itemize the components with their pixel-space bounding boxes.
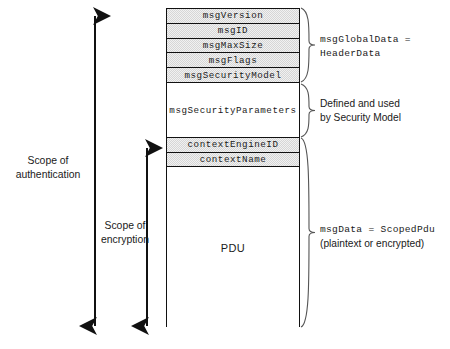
field-msgsecurityparameters: msgSecurityParameters bbox=[167, 83, 299, 138]
field-msgid: msgID bbox=[167, 24, 299, 39]
group-braces bbox=[300, 0, 320, 349]
label-security-model: Defined and usedby Security Model bbox=[320, 97, 401, 124]
field-msgmaxsize: msgMaxSize bbox=[167, 39, 299, 54]
label-line: (plaintext or encrypted) bbox=[320, 237, 435, 251]
field-msgsecuritymodel: msgSecurityModel bbox=[167, 68, 299, 83]
label-msgdata: msgData = ScopedPdu(plaintext or encrypt… bbox=[320, 223, 435, 250]
field-contextengineid: contextEngineID bbox=[167, 138, 299, 153]
scope-of-authentication-label: Scope ofauthentication bbox=[0, 154, 96, 181]
label-line: by Security Model bbox=[320, 111, 401, 125]
pdu-label: PDU bbox=[221, 242, 245, 254]
label-msgglobaldata: msgGlobalData =HeaderData bbox=[320, 33, 411, 60]
label-line: msgData = ScopedPdu bbox=[320, 223, 435, 237]
brace-msg-data bbox=[301, 138, 315, 327]
label-line: HeaderData bbox=[320, 47, 411, 61]
brace-global-data bbox=[301, 8, 315, 82]
field-msgflags: msgFlags bbox=[167, 53, 299, 68]
label-line: Defined and used bbox=[320, 97, 401, 111]
label-line: Scope of bbox=[0, 154, 96, 168]
field-contextname: contextName bbox=[167, 153, 299, 168]
label-line: msgGlobalData = bbox=[320, 33, 411, 47]
field-msgversion: msgVersion bbox=[167, 9, 299, 24]
brace-security-parameters bbox=[301, 84, 315, 137]
pdu-area: PDU bbox=[167, 167, 299, 328]
snmpv3-message-box: msgVersion msgID msgMaxSize msgFlags msg… bbox=[166, 8, 300, 327]
diagram-canvas: Scope ofauthentication Scope ofencryptio… bbox=[0, 0, 450, 349]
label-line: authentication bbox=[0, 168, 96, 182]
